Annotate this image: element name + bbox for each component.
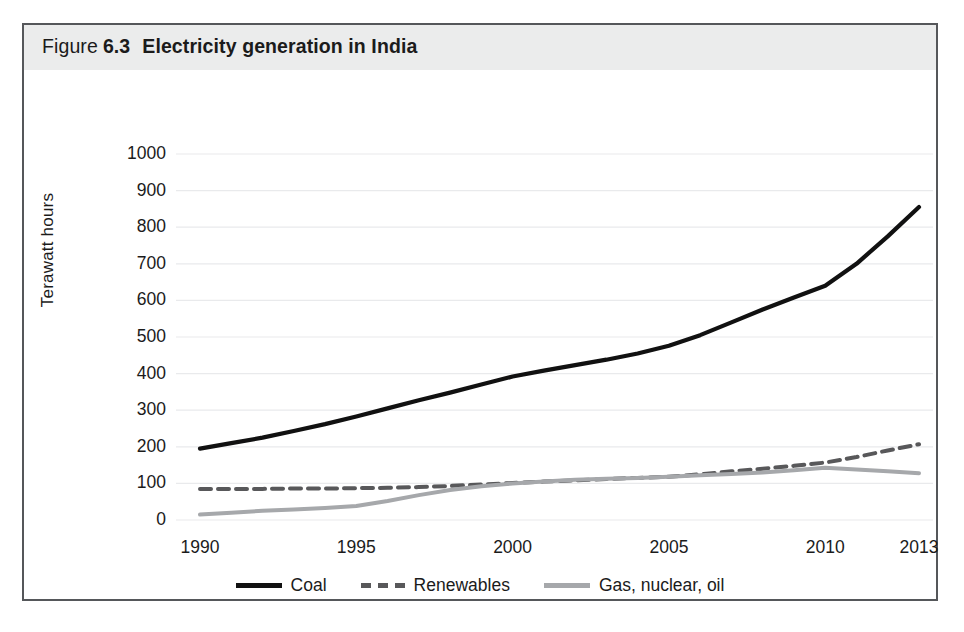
legend-item-gas-nuclear-oil[interactable]: Gas, nuclear, oil: [544, 575, 724, 596]
series-line-coal: [200, 207, 919, 449]
legend-label: Gas, nuclear, oil: [599, 575, 724, 596]
figure-frame: Figure6.3Electricity generation in India…: [22, 23, 938, 601]
legend-item-coal[interactable]: Coal: [236, 575, 327, 596]
legend-swatch-icon: [361, 583, 405, 588]
page-title: Figure6.3Electricity generation in India: [42, 35, 417, 58]
figure-label-word: Figure: [42, 35, 98, 57]
chart-area: Terawatt hours 1000900800700600500400300…: [24, 70, 936, 599]
legend-swatch-icon: [236, 583, 282, 588]
figure-number: 6.3: [103, 35, 130, 57]
chart-legend: CoalRenewablesGas, nuclear, oil: [24, 575, 936, 596]
series-lines: [200, 207, 919, 514]
line-chart-plot: [24, 70, 936, 603]
legend-label: Coal: [291, 575, 327, 596]
legend-label: Renewables: [414, 575, 510, 596]
legend-item-renewables[interactable]: Renewables: [361, 575, 510, 596]
series-line-gas-nuclear-oil: [200, 468, 919, 515]
figure-header-band: Figure6.3Electricity generation in India: [24, 25, 936, 70]
legend-swatch-icon: [544, 583, 590, 588]
figure-title-text: Electricity generation in India: [142, 35, 417, 57]
